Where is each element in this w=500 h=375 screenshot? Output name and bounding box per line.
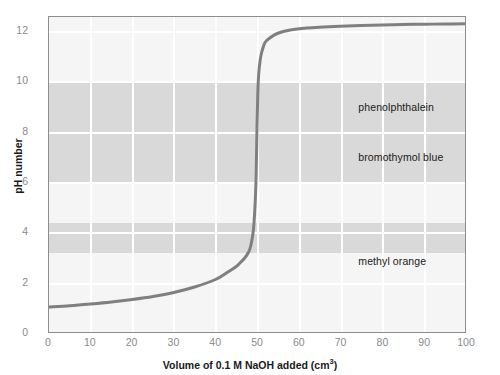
x-tick-label: 0 [28, 336, 68, 348]
x-tick-label: 40 [195, 336, 235, 348]
titration-curve-figure: phenolphthaleinbromothymol bluemethyl or… [0, 0, 500, 375]
x-axis-title-main: Volume of 0.1 M NaOH added (cm [163, 359, 330, 371]
x-tick-label: 80 [362, 336, 402, 348]
plot-area: phenolphthaleinbromothymol bluemethyl or… [48, 16, 466, 333]
y-tick-label: 0 [0, 326, 28, 338]
x-tick-label: 10 [70, 336, 110, 348]
x-tick-label: 60 [279, 336, 319, 348]
y-tick-label: 2 [0, 276, 28, 288]
y-axis-title: pH number [12, 96, 24, 236]
y-tick-label: 10 [0, 74, 28, 86]
band-label-phenolphthalein: phenolphthalein [358, 101, 434, 113]
x-tick-label: 100 [446, 336, 486, 348]
band-label-bromothymol-blue: bromothymol blue [358, 151, 443, 163]
y-tick-label: 12 [0, 24, 28, 36]
band-label-methyl-orange: methyl orange [358, 255, 426, 267]
x-tick-label: 20 [112, 336, 152, 348]
x-tick-label: 90 [404, 336, 444, 348]
ph-curve [49, 17, 465, 332]
x-tick-label: 50 [237, 336, 277, 348]
x-axis-title: Volume of 0.1 M NaOH added (cm3) [0, 357, 500, 371]
x-tick-label: 70 [321, 336, 361, 348]
x-tick-label: 30 [153, 336, 193, 348]
x-axis-title-tail: ) [334, 359, 338, 371]
